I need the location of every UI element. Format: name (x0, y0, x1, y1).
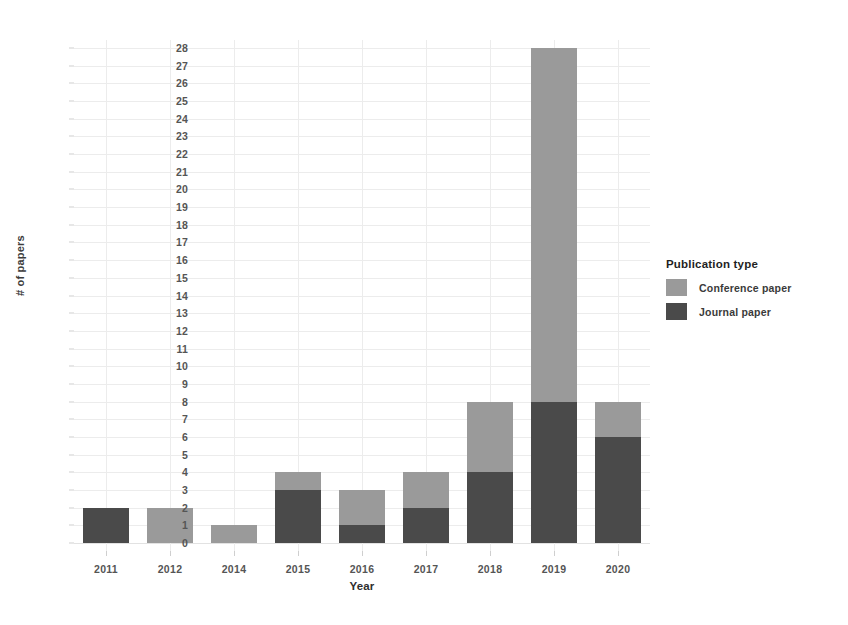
bar-segment[interactable] (403, 472, 449, 507)
bar-stack[interactable] (211, 525, 257, 543)
legend-item[interactable]: Conference paper (666, 279, 842, 296)
x-axis-tick-label: 2018 (455, 563, 525, 575)
y-axis-tick-mark (69, 383, 74, 384)
y-axis-tick-label: 9 (152, 378, 188, 390)
y-axis-tick-mark (69, 83, 74, 84)
y-axis-tick-mark (69, 277, 74, 278)
y-axis-tick-label: 21 (152, 166, 188, 178)
legend-item-label: Journal paper (699, 306, 771, 318)
y-axis-tick-label: 13 (152, 307, 188, 319)
y-axis-tick-label: 28 (152, 42, 188, 54)
y-axis-tick-mark (69, 419, 74, 420)
y-axis-tick-mark (69, 401, 74, 402)
y-axis-tick-label: 17 (152, 236, 188, 248)
y-axis-tick-mark (69, 65, 74, 66)
y-axis-tick-mark (69, 454, 74, 455)
x-axis-tick-mark (170, 551, 171, 556)
x-axis-tick-label: 2016 (327, 563, 397, 575)
y-axis-tick-label: 19 (152, 201, 188, 213)
bar-stack[interactable] (467, 402, 513, 543)
y-axis-tick-mark (69, 507, 74, 508)
y-axis-tick-label: 1 (152, 519, 188, 531)
legend-color-swatch (666, 303, 687, 320)
y-axis-tick-label: 0 (152, 537, 188, 549)
x-axis-tick-mark (426, 551, 427, 556)
x-axis-tick-mark (106, 551, 107, 556)
bar-segment[interactable] (211, 525, 257, 543)
y-axis-tick-label: 27 (152, 60, 188, 72)
y-axis-tick-mark (69, 260, 74, 261)
y-axis-tick-mark (69, 207, 74, 208)
y-axis-tick-mark (69, 118, 74, 119)
x-axis-tick-mark (234, 551, 235, 556)
y-axis-tick-mark (69, 436, 74, 437)
y-axis-tick-mark (69, 171, 74, 172)
x-axis-tick-mark (298, 551, 299, 556)
y-axis-tick-label: 4 (152, 466, 188, 478)
y-axis-tick-label: 15 (152, 272, 188, 284)
y-axis-tick-mark (69, 525, 74, 526)
bar-segment[interactable] (275, 472, 321, 490)
y-axis-tick-label: 7 (152, 413, 188, 425)
x-axis-tick-label: 2014 (199, 563, 269, 575)
y-axis-tick-mark (69, 313, 74, 314)
legend-item-label: Conference paper (699, 282, 791, 294)
bar-segment[interactable] (467, 472, 513, 543)
bar-segment[interactable] (403, 508, 449, 543)
legend: Publication type Conference paperJournal… (666, 258, 842, 327)
y-axis-tick-label: 2 (152, 502, 188, 514)
y-axis-tick-mark (69, 295, 74, 296)
bar-segment[interactable] (531, 48, 577, 402)
y-axis-tick-mark (69, 189, 74, 190)
bar-segment[interactable] (467, 402, 513, 473)
x-axis-tick-mark (618, 551, 619, 556)
y-axis-tick-label: 24 (152, 113, 188, 125)
bar-segment[interactable] (531, 402, 577, 543)
x-axis-tick-label: 2012 (135, 563, 205, 575)
bar-segment[interactable] (339, 525, 385, 543)
x-axis-title: Year (0, 580, 724, 592)
y-axis-tick-label: 11 (152, 343, 188, 355)
y-axis-tick-mark (69, 136, 74, 137)
bar-segment[interactable] (595, 437, 641, 543)
y-axis-tick-label: 14 (152, 290, 188, 302)
y-axis-tick-label: 16 (152, 254, 188, 266)
y-axis-tick-mark (69, 543, 74, 544)
y-axis-tick-mark (69, 224, 74, 225)
bar-stack[interactable] (531, 48, 577, 543)
y-axis-tick-mark (69, 348, 74, 349)
bar-segment[interactable] (275, 490, 321, 543)
y-axis-tick-label: 25 (152, 95, 188, 107)
y-axis-tick-label: 26 (152, 77, 188, 89)
y-axis-tick-mark (69, 330, 74, 331)
y-axis-tick-label: 22 (152, 148, 188, 160)
legend-title: Publication type (666, 258, 842, 270)
legend-item[interactable]: Journal paper (666, 303, 842, 320)
legend-color-swatch (666, 279, 687, 296)
bar-stack[interactable] (595, 402, 641, 543)
y-axis-title: # of papers (14, 235, 26, 296)
bar-stack[interactable] (275, 472, 321, 543)
y-axis-tick-label: 12 (152, 325, 188, 337)
y-axis-tick-label: 18 (152, 219, 188, 231)
y-axis-tick-label: 20 (152, 183, 188, 195)
y-axis-tick-mark (69, 489, 74, 490)
x-axis-tick-mark (554, 551, 555, 556)
bar-segment[interactable] (339, 490, 385, 525)
bar-stack[interactable] (403, 472, 449, 543)
bar-stack[interactable] (339, 490, 385, 543)
y-axis-tick-mark (69, 472, 74, 473)
x-axis-tick-label: 2020 (583, 563, 653, 575)
y-axis-tick-mark (69, 48, 74, 49)
x-axis-tick-label: 2019 (519, 563, 589, 575)
x-axis-tick-mark (490, 551, 491, 556)
bar-segment[interactable] (83, 508, 129, 543)
bar-stack[interactable] (83, 508, 129, 543)
legend-entries: Conference paperJournal paper (666, 279, 842, 320)
gridline-vertical (234, 40, 235, 551)
stacked-bar-chart: 0123456789101112131415161718192021222324… (0, 0, 848, 625)
y-axis-tick-label: 6 (152, 431, 188, 443)
bar-segment[interactable] (595, 402, 641, 437)
y-axis-tick-mark (69, 101, 74, 102)
y-axis-tick-label: 23 (152, 130, 188, 142)
